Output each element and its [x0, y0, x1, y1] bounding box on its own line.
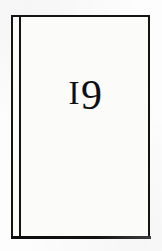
inner-spine-rule [19, 15, 22, 239]
plate-frame-border: I9 [11, 15, 150, 238]
plate-number: I9 [23, 72, 148, 114]
numeral-one-glyph: I [69, 75, 81, 111]
numeral-nine-glyph: 9 [81, 72, 103, 118]
plate-content-area: I9 [23, 17, 148, 236]
scanned-page: I9 [0, 0, 162, 251]
